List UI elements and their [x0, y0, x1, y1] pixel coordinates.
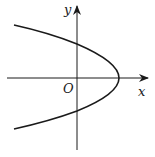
origin-label: O	[63, 81, 74, 96]
coordinate-diagram: y x O	[0, 0, 155, 157]
parabola-curve	[14, 25, 119, 129]
y-axis-label: y	[63, 2, 72, 17]
x-axis-label: x	[138, 84, 146, 99]
